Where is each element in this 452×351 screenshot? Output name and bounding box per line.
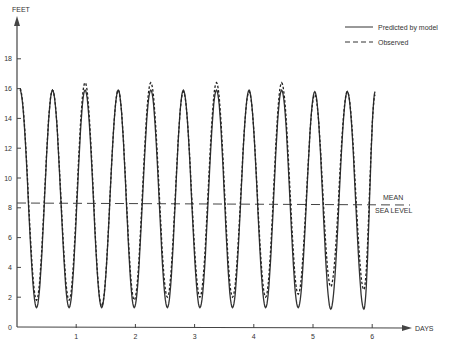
legend-observed-label: Observed [378, 39, 408, 46]
sea-level-label: SEA LEVEL [375, 207, 412, 214]
y-tick-label: 16 [4, 85, 12, 92]
x-tick-label: 4 [252, 333, 256, 340]
y-axis-label: FEET [12, 6, 31, 13]
y-tick-label: 8 [8, 204, 12, 211]
predicted-series-line [20, 90, 375, 309]
y-axis-arrow-icon [14, 16, 20, 26]
mean-label: MEAN [383, 194, 403, 201]
y-tick-label: 4 [8, 264, 12, 271]
y-tick-label: 6 [8, 234, 12, 241]
y-tick-label: 2 [8, 294, 12, 301]
x-tick-label: 3 [193, 333, 197, 340]
x-axis-arrow-icon [402, 325, 412, 331]
y-ticks: 024681012141618 [4, 55, 21, 330]
y-tick-label: 12 [4, 145, 12, 152]
chart-canvas: FEET DAYS 024681012141618 123456 MEAN SE… [0, 0, 452, 351]
x-ticks: 123456 [74, 324, 374, 340]
x-tick-label: 1 [74, 333, 78, 340]
x-tick-label: 6 [370, 333, 374, 340]
tide-chart: FEET DAYS 024681012141618 123456 MEAN SE… [0, 0, 452, 351]
legend: Predicted by model Observed [345, 24, 438, 46]
x-axis-label: DAYS [415, 325, 434, 332]
y-tick-label: 0 [8, 324, 12, 331]
legend-predicted-label: Predicted by model [378, 24, 438, 32]
x-tick-label: 2 [133, 333, 137, 340]
y-tick-label: 14 [4, 115, 12, 122]
y-tick-label: 10 [4, 175, 12, 182]
x-tick-label: 5 [311, 333, 315, 340]
y-tick-label: 18 [4, 55, 12, 62]
x-axis [17, 327, 405, 328]
